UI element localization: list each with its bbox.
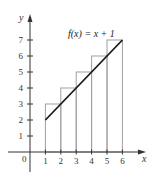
riemann-rectangles <box>45 40 122 152</box>
function-line-segment <box>45 40 122 120</box>
y-tick-label: 6 <box>19 51 24 61</box>
y-tick-label: 5 <box>19 67 24 77</box>
function-annotation: f(x) = x + 1 <box>68 28 115 40</box>
y-axis-arrow-icon <box>28 14 33 22</box>
x-tick-label: 4 <box>89 156 94 166</box>
x-tick-label: 6 <box>120 156 125 166</box>
y-axis-label: y <box>18 12 24 23</box>
y-tick-label: 7 <box>19 35 24 45</box>
x-axis-label: x <box>141 153 147 164</box>
x-tick-label: 1 <box>43 156 48 166</box>
riemann-rectangle <box>61 88 76 152</box>
x-tick-label: 5 <box>105 156 110 166</box>
y-tick-label: 3 <box>19 99 24 109</box>
x-tick-label: 3 <box>74 156 79 166</box>
riemann-rectangle <box>107 40 122 152</box>
y-tick-label: 1 <box>19 131 24 141</box>
function-line <box>45 40 122 120</box>
riemann-rectangle <box>76 72 91 152</box>
y-tick-label: 2 <box>19 115 24 125</box>
riemann-sum-chart: 1234561234567 y x 0 f(x) = x + 1 <box>0 0 157 173</box>
x-tick-label: 2 <box>59 156 64 166</box>
origin-label: 0 <box>22 154 27 164</box>
y-tick-label: 4 <box>19 83 24 93</box>
